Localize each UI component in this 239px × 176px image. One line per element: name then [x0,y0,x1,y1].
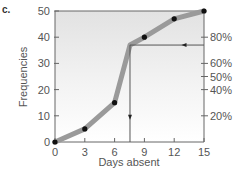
percent-tick-label: 40% [210,84,232,96]
percent-tick-label: 60% [210,57,232,69]
data-point [172,16,177,21]
x-tick-label: 3 [82,146,88,158]
data-point [82,126,87,131]
y-axis-label: Frequencies [17,46,29,107]
x-axis-label: Days absent [98,156,159,168]
percent-tick-label: 80% [210,31,232,43]
x-tick-label: 0 [52,146,58,158]
y-tick-label: 20 [38,84,50,96]
x-tick-label: 15 [198,146,210,158]
y-tick-label: 10 [38,110,50,122]
y-tick-label: 30 [38,57,50,69]
percent-tick-label: 20% [210,110,232,122]
data-point [201,8,206,13]
ogive-chart: 010203040500369121520%40%50%60%80% Days … [0,0,239,176]
data-point [142,35,147,40]
x-tick-label: 12 [168,146,180,158]
percent-tick-label: 50% [210,71,232,83]
data-point [52,139,57,144]
data-point [112,100,117,105]
y-tick-label: 0 [44,136,50,148]
y-tick-label: 50 [38,5,50,17]
y-tick-label: 40 [38,31,50,43]
